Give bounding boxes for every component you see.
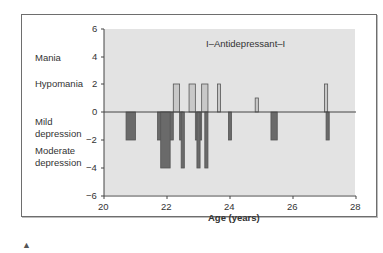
elevated-mood-bar xyxy=(217,84,220,112)
label-mania: Mania xyxy=(35,52,61,64)
x-tick-20: 20 xyxy=(98,201,109,212)
y-tick-4: 4 xyxy=(92,51,97,62)
label-hypomania: Hypomania xyxy=(35,78,83,90)
elevated-mood-bar xyxy=(189,84,195,112)
y-tick-m6: −6 xyxy=(86,190,97,201)
elevated-mood-bar xyxy=(255,98,258,112)
depression-bar xyxy=(126,112,135,140)
corner-mark-icon: ▲ xyxy=(22,240,31,250)
y-tick-m2: −2 xyxy=(86,134,97,145)
depression-bar xyxy=(197,112,200,168)
bars-group xyxy=(126,84,329,168)
depression-bar xyxy=(181,112,184,168)
depression-bar xyxy=(228,112,231,140)
x-axis-label: Age (years) xyxy=(208,212,260,223)
depression-bar xyxy=(326,112,329,140)
x-tick-28: 28 xyxy=(350,201,361,212)
elevated-mood-bar xyxy=(173,84,179,112)
chart-title: I–Antidepressant–I xyxy=(206,38,285,49)
x-tick-24: 24 xyxy=(224,201,235,212)
depression-bar xyxy=(205,112,208,168)
label-moderate-depression: Moderatedepression xyxy=(35,145,81,169)
y-tick-6: 6 xyxy=(92,23,97,34)
y-tick-m4: −4 xyxy=(86,162,97,173)
y-tick-0: 0 xyxy=(92,106,97,117)
elevated-mood-bar xyxy=(202,84,208,112)
depression-bar xyxy=(271,112,277,140)
elevated-mood-bar xyxy=(325,84,328,112)
x-tick-22: 22 xyxy=(161,201,172,212)
y-tick-2: 2 xyxy=(92,78,97,89)
label-mild-depression: Milddepression xyxy=(35,116,81,140)
depression-bar xyxy=(161,112,170,168)
x-tick-26: 26 xyxy=(287,201,298,212)
